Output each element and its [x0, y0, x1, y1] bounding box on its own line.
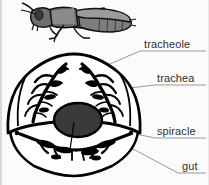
spiracle-left [15, 131, 20, 136]
label-trachea: trachea [157, 72, 194, 84]
grasshopper-front-leg [50, 27, 58, 35]
figure-panel: tracheole trachea spiracle gut [0, 0, 209, 185]
label-gut: gut [182, 160, 198, 172]
trachea-blob-ventral-6 [91, 156, 101, 161]
grasshopper-hind-tarsus [49, 38, 55, 42]
grasshopper-eye [35, 10, 43, 20]
gut [54, 103, 102, 137]
label-tracheole: tracheole [144, 38, 190, 50]
body-cross-section [8, 54, 140, 176]
label-spiracle: spiracle [157, 125, 196, 137]
grasshopper-antenna-upper [22, 3, 34, 11]
grasshopper-illustration [21, 3, 136, 42]
insect-respiration-diagram [0, 0, 209, 185]
trachea-blob-ventral-5 [51, 155, 61, 160]
